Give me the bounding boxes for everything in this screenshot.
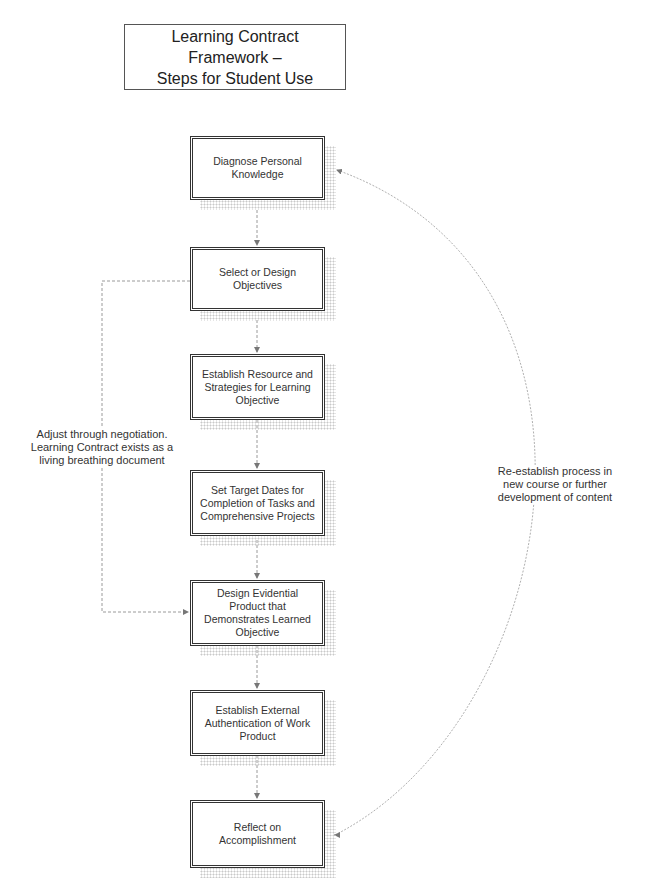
- step-diagnose-knowledge: Diagnose Personal Knowledge: [190, 136, 325, 200]
- step-select-objectives: Select or Design Objectives: [190, 247, 325, 311]
- negotiation-note: Adjust through negotiation. Learning Con…: [26, 428, 178, 467]
- title-line-1: Learning Contract Framework –: [131, 26, 339, 68]
- step-label: Reflect on Accomplishment: [199, 821, 316, 847]
- step-label: Design Evidential Product that Demonstra…: [199, 587, 316, 639]
- step-set-target-dates: Set Target Dates for Completion of Tasks…: [190, 470, 325, 536]
- title-line-2: Steps for Student Use: [131, 68, 339, 89]
- reestablish-note: Re-establish process in new course or fu…: [488, 465, 622, 504]
- step-label: Set Target Dates for Completion of Tasks…: [199, 484, 316, 523]
- diagram-title: Learning Contract Framework – Steps for …: [124, 24, 346, 90]
- step-establish-resources: Establish Resource and Strategies for Le…: [190, 354, 325, 420]
- step-label: Establish Resource and Strategies for Le…: [199, 368, 316, 407]
- step-reflect-accomplishment: Reflect on Accomplishment: [190, 800, 325, 868]
- step-label: Establish External Authentication of Wor…: [199, 704, 316, 743]
- step-label: Diagnose Personal Knowledge: [199, 155, 316, 181]
- step-external-authentication: Establish External Authentication of Wor…: [190, 690, 325, 756]
- step-design-evidential-product: Design Evidential Product that Demonstra…: [190, 580, 325, 646]
- step-label: Select or Design Objectives: [199, 266, 316, 292]
